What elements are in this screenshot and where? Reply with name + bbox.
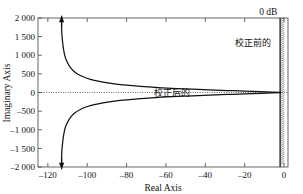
y-tick-label: 1 000 (15, 50, 36, 60)
zero-db-annotation: 0 dB (259, 7, 277, 17)
x-tick-label: –100 (77, 170, 97, 180)
uncorrected-annotation: 校正前的 (235, 37, 271, 48)
x-tick-label: –20 (237, 170, 252, 180)
x-tick-label: –40 (198, 170, 213, 180)
y-axis-label: Imaginary Axis (2, 63, 12, 122)
y-tick-label: –2 000 (9, 162, 35, 172)
x-tick-label: –120 (38, 170, 58, 180)
x-axis-label: Real Axis (144, 183, 182, 193)
nyquist-plot-figure: –120–100–80–60–40–200 –2 000–1 500–1 000… (0, 0, 303, 194)
x-tick-label: –60 (158, 170, 173, 180)
figure-background (0, 0, 303, 194)
y-tick-label: –1 000 (9, 125, 35, 135)
y-tick-label: 2 000 (15, 13, 36, 23)
corrected-annotation: 校正后的 (154, 87, 190, 98)
y-tick-label: –1 500 (9, 144, 35, 154)
x-tick-label: 0 (282, 170, 287, 180)
y-tick-label: –500 (16, 106, 36, 116)
x-tick-label: –80 (119, 170, 134, 180)
y-tick-label: 0 (31, 88, 36, 98)
y-tick-label: 500 (22, 69, 36, 79)
y-tick-label: 1 500 (15, 32, 36, 42)
